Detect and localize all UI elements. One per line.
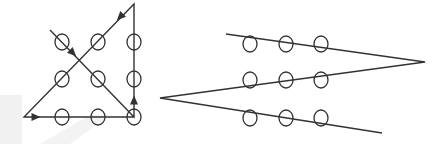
dot-circle bbox=[314, 36, 328, 52]
right-solution bbox=[160, 34, 425, 133]
arrow-icon bbox=[117, 11, 126, 20]
arrow-icon bbox=[32, 113, 41, 121]
arrow-icon bbox=[130, 96, 138, 105]
solution-line bbox=[24, 4, 134, 117]
nine-dot-diagram bbox=[0, 0, 443, 144]
dot-circle bbox=[279, 36, 293, 52]
left-solution bbox=[24, 4, 141, 125]
dot-circle bbox=[314, 72, 328, 88]
